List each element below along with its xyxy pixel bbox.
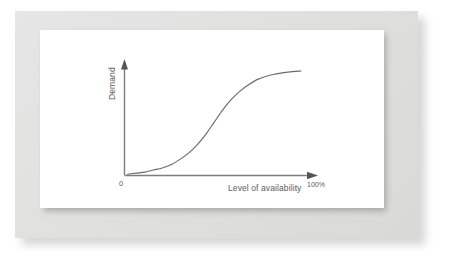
demand-curve: [128, 71, 302, 174]
x-axis-max-label: 100%: [307, 181, 325, 188]
chart-figure: Demand 0 Level of availability 100%: [0, 0, 459, 261]
screenshot-root: Demand 0 Level of availability 100%: [0, 0, 459, 261]
x-axis-label: Level of availability: [228, 183, 302, 193]
origin-tick-label: 0: [119, 179, 123, 188]
y-axis-label: Demand: [107, 67, 117, 100]
y-axis-arrowhead-icon: [121, 59, 128, 70]
x-axis-arrowhead-icon: [307, 172, 318, 179]
